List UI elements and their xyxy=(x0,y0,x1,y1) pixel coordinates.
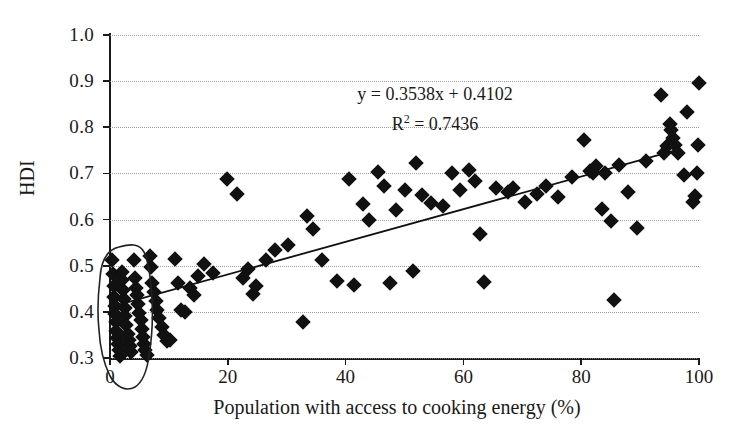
data-point xyxy=(689,166,705,182)
y-axis-tick-label: 0.8 xyxy=(69,116,94,138)
data-point xyxy=(435,198,451,214)
x-axis-tick xyxy=(580,358,582,365)
x-axis-tick-label: 20 xyxy=(218,366,237,388)
data-point xyxy=(280,237,296,253)
data-point xyxy=(691,75,707,91)
y-axis-tick xyxy=(103,219,110,221)
data-point xyxy=(361,212,377,228)
data-point xyxy=(347,277,363,293)
data-point xyxy=(690,137,706,153)
scatter-chart-figure: HDI 0.30.40.50.60.70.80.91.0 02040608010… xyxy=(0,0,746,442)
data-point xyxy=(653,88,669,104)
x-axis-tick xyxy=(227,358,229,365)
data-point xyxy=(612,157,628,173)
data-point xyxy=(355,197,371,213)
data-point xyxy=(472,226,488,242)
x-axis-title: Population with access to cooking energy… xyxy=(0,396,746,419)
y-axis-tick-label: 0.5 xyxy=(69,255,94,277)
data-point xyxy=(576,132,592,148)
data-point xyxy=(408,155,424,171)
y-axis-tick xyxy=(103,34,110,36)
data-point xyxy=(444,165,460,181)
data-point xyxy=(397,182,413,198)
y-axis-tick-label: 0.6 xyxy=(69,209,94,231)
data-point xyxy=(638,153,654,169)
y-axis-tick xyxy=(103,126,110,128)
y-axis-tick-label: 0.3 xyxy=(69,347,94,369)
y-axis-title: HDI xyxy=(16,160,39,196)
y-axis-tick xyxy=(103,80,110,82)
data-point xyxy=(382,275,398,291)
data-point xyxy=(517,195,533,211)
x-axis-tick-label: 80 xyxy=(572,366,591,388)
data-point xyxy=(167,251,183,267)
data-point xyxy=(621,185,637,201)
data-point xyxy=(229,186,245,202)
x-axis-tick-label: 40 xyxy=(336,366,355,388)
y-gridline xyxy=(110,35,699,36)
data-point xyxy=(606,293,622,309)
x-axis-tick xyxy=(109,358,111,365)
data-point xyxy=(388,202,404,218)
data-point xyxy=(550,190,566,206)
data-point xyxy=(143,259,159,275)
x-axis-tick-label: 0 xyxy=(105,366,115,388)
data-point xyxy=(603,214,619,230)
x-axis-tick xyxy=(345,358,347,365)
data-point xyxy=(295,314,311,330)
y-axis-tick-label: 1.0 xyxy=(69,24,94,46)
y-axis-tick-label: 0.7 xyxy=(69,162,94,184)
data-point xyxy=(305,221,321,237)
data-point xyxy=(676,167,692,183)
x-axis-tick-label: 100 xyxy=(685,366,714,388)
data-point xyxy=(594,201,610,217)
data-point xyxy=(376,178,392,194)
r-squared-text: R2 = 0.7436 xyxy=(330,107,540,137)
x-axis-tick xyxy=(463,358,465,365)
y-axis-tick-label: 0.4 xyxy=(69,301,94,323)
y-axis-tick-label: 0.9 xyxy=(69,70,94,92)
y-gridline xyxy=(110,312,699,313)
x-axis-tick-label: 60 xyxy=(454,366,473,388)
y-gridline xyxy=(110,358,699,359)
data-point xyxy=(453,182,469,198)
regression-annotation: y = 0.3538x + 0.4102 R2 = 0.7436 xyxy=(330,82,540,137)
data-point xyxy=(679,104,695,120)
x-axis-tick xyxy=(698,358,700,365)
y-axis-tick xyxy=(103,173,110,175)
regression-equation-text: y = 0.3538x + 0.4102 xyxy=(330,82,540,107)
data-point xyxy=(629,220,645,236)
data-point xyxy=(565,169,581,185)
r-squared-value: 0.7436 xyxy=(429,114,479,134)
data-point xyxy=(476,275,492,291)
data-point xyxy=(329,274,345,290)
